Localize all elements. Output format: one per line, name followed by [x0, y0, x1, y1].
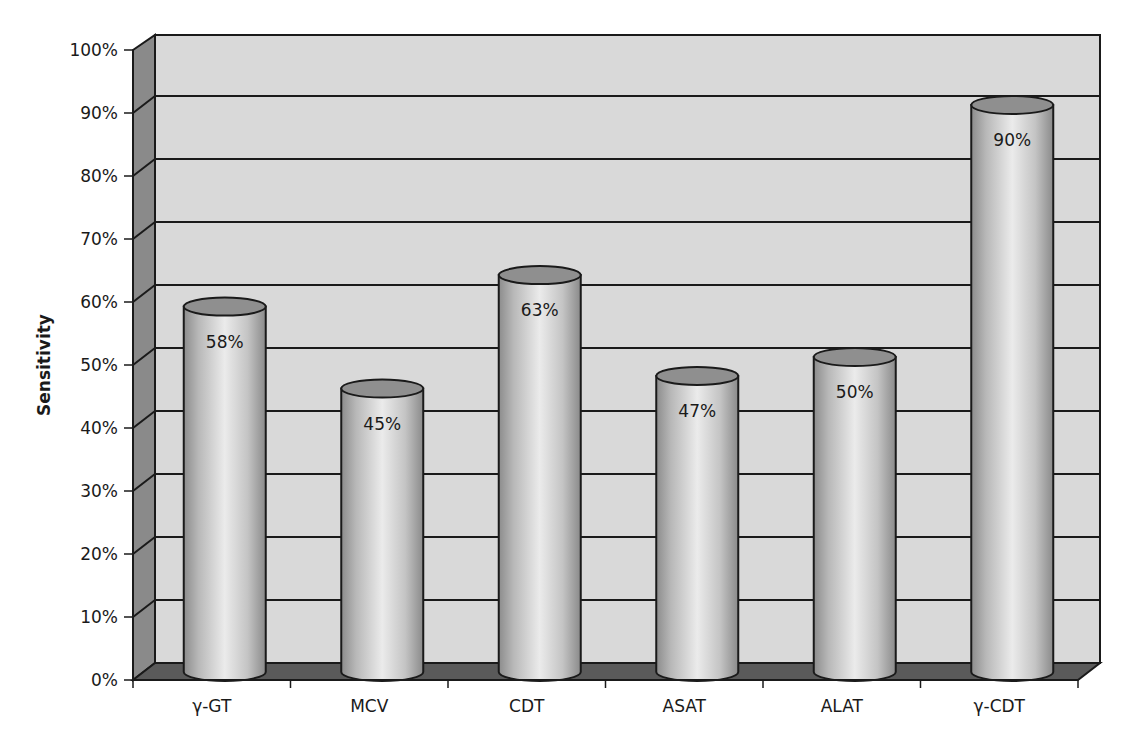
- bar-0: 58%: [184, 298, 266, 681]
- bar-5: 90%: [971, 96, 1053, 681]
- bar-4: 50%: [814, 348, 896, 681]
- x-category-label: CDT: [509, 696, 545, 716]
- y-tick-label: 30%: [80, 481, 118, 501]
- y-tick-label: 10%: [80, 607, 118, 627]
- y-tick-label: 60%: [80, 292, 118, 312]
- bar-3: 47%: [656, 367, 738, 681]
- y-tick-label: 90%: [80, 103, 118, 123]
- bar-2: 63%: [499, 266, 581, 681]
- bar-value-label: 90%: [993, 130, 1031, 150]
- y-tick-label: 0%: [91, 670, 118, 690]
- x-category-label: γ-GT: [192, 696, 232, 716]
- bar-value-label: 63%: [521, 300, 559, 320]
- floor: [133, 663, 1100, 680]
- y-tick-label: 20%: [80, 544, 118, 564]
- y-axis-title: Sensitivity: [34, 314, 54, 416]
- bar-value-label: 47%: [678, 401, 716, 421]
- bar-1: 45%: [341, 380, 423, 682]
- y-tick-label: 70%: [80, 229, 118, 249]
- sensitivity-bar-chart: 0%10%20%30%40%50%60%70%80%90%100% 58%45%…: [0, 0, 1130, 747]
- x-category-label: γ-CDT: [973, 696, 1025, 716]
- y-tick-label: 40%: [80, 418, 118, 438]
- y-axis: 0%10%20%30%40%50%60%70%80%90%100%: [69, 40, 133, 690]
- bar-value-label: 45%: [363, 414, 401, 434]
- x-category-label: ASAT: [663, 696, 707, 716]
- bar-value-label: 50%: [836, 382, 874, 402]
- x-category-label: ALAT: [821, 696, 864, 716]
- y-tick-label: 80%: [80, 166, 118, 186]
- y-tick-label: 50%: [80, 355, 118, 375]
- x-category-label: MCV: [350, 696, 389, 716]
- y-tick-label: 100%: [69, 40, 118, 60]
- x-axis: γ-GTMCVCDTASATALATγ-CDT: [133, 680, 1078, 716]
- bar-value-label: 58%: [206, 332, 244, 352]
